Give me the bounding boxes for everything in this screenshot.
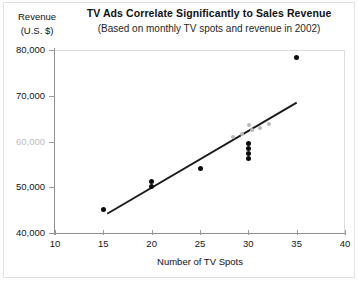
y-tick-label: 70,000 bbox=[1, 91, 45, 101]
title-block: TV Ads Correlate Significantly to Sales … bbox=[70, 7, 348, 35]
x-tick-mark bbox=[345, 230, 346, 235]
data-point bbox=[258, 126, 262, 130]
x-tick-label: 25 bbox=[180, 239, 220, 249]
x-tick-mark bbox=[103, 230, 104, 235]
x-tick-label: 10 bbox=[35, 239, 75, 249]
data-point bbox=[149, 184, 154, 189]
y-tick-mark bbox=[49, 142, 55, 143]
data-point bbox=[198, 166, 203, 171]
data-points-layer bbox=[55, 50, 345, 233]
y-axis-title-line2: (U.S. $) bbox=[8, 24, 66, 37]
data-point bbox=[267, 122, 271, 126]
y-tick-mark bbox=[49, 50, 55, 51]
y-tick-mark bbox=[49, 187, 55, 188]
chart-title: TV Ads Correlate Significantly to Sales … bbox=[70, 7, 348, 20]
x-tick-label: 35 bbox=[277, 239, 317, 249]
x-tick-mark bbox=[152, 230, 153, 235]
x-axis-title: Number of TV Spots bbox=[55, 256, 345, 267]
y-tick-label: 40,000 bbox=[1, 228, 45, 238]
data-point bbox=[240, 132, 244, 136]
data-point bbox=[149, 179, 154, 184]
y-tick-label: 50,000 bbox=[1, 182, 45, 192]
chart-subtitle: (Based on monthly TV spots and revenue i… bbox=[70, 22, 348, 35]
y-tick-label: 80,000 bbox=[1, 45, 45, 55]
x-tick-label: 15 bbox=[83, 239, 123, 249]
x-tick-mark bbox=[297, 230, 298, 235]
data-point bbox=[247, 123, 251, 127]
data-point bbox=[231, 135, 235, 139]
x-tick-label: 40 bbox=[325, 239, 358, 249]
y-axis-title-line1: Revenue bbox=[8, 10, 66, 23]
chart-figure: TV Ads Correlate Significantly to Sales … bbox=[0, 0, 358, 282]
x-tick-label: 30 bbox=[228, 239, 268, 249]
x-tick-label: 20 bbox=[132, 239, 172, 249]
y-axis-title: Revenue (U.S. $) bbox=[8, 10, 66, 37]
x-tick-mark bbox=[248, 230, 249, 235]
x-tick-mark bbox=[200, 230, 201, 235]
data-point bbox=[246, 156, 251, 161]
x-tick-mark bbox=[55, 230, 56, 235]
y-tick-label: 60,000 bbox=[1, 137, 45, 147]
data-point bbox=[250, 128, 254, 132]
data-point bbox=[101, 207, 106, 212]
data-point bbox=[294, 55, 299, 60]
y-tick-mark bbox=[49, 96, 55, 97]
plot-area bbox=[55, 50, 345, 233]
